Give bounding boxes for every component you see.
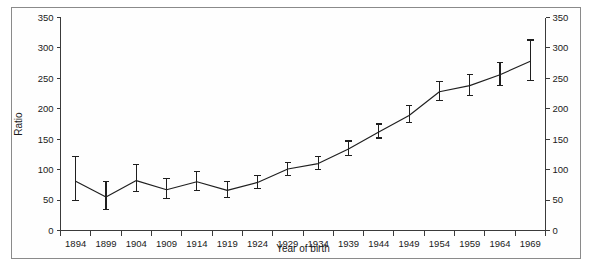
- x-tick-label: 1924: [247, 238, 268, 249]
- error-bar: [194, 171, 200, 190]
- error-bar: [133, 164, 139, 191]
- y-tick-label-left: 150: [38, 134, 54, 145]
- y-tick-label-right: 300: [553, 42, 569, 53]
- y-tick-label-left: 300: [38, 42, 54, 53]
- series-line-ratio: [76, 61, 531, 197]
- x-tick-label: 1969: [520, 238, 541, 249]
- y-axis-left: 050100150200250300350: [38, 12, 61, 236]
- x-tick-label: 1894: [65, 238, 86, 249]
- y-tick-label-left: 350: [38, 12, 54, 23]
- y-tick-label-right: 50: [553, 194, 564, 205]
- x-tick-label: 1909: [156, 238, 177, 249]
- y-tick-label-right: 350: [553, 12, 569, 23]
- error-bars: [72, 40, 533, 209]
- x-tick-label: 1954: [429, 238, 450, 249]
- x-tick-label: 1944: [368, 238, 389, 249]
- x-tick-label: 1904: [126, 238, 147, 249]
- ratio-by-year-of-birth-chart: 050100150200250300350 050100150200250300…: [0, 0, 594, 275]
- y-tick-label-right: 0: [553, 225, 558, 236]
- x-tick-label: 1964: [489, 238, 510, 249]
- y-tick-label-right: 100: [553, 164, 569, 175]
- y-tick-label-left: 100: [38, 164, 54, 175]
- error-bar: [72, 157, 78, 200]
- x-tick-label: 1899: [95, 238, 116, 249]
- x-tick-label: 1914: [186, 238, 207, 249]
- x-tick-label: 1919: [217, 238, 238, 249]
- ratio-trend-line: [76, 61, 531, 197]
- y-tick-label-right: 200: [553, 103, 569, 114]
- y-axis-right: 050100150200250300350: [546, 12, 569, 236]
- x-axis-title: Year of birth: [276, 243, 330, 254]
- y-tick-label-right: 150: [553, 134, 569, 145]
- error-bar: [527, 40, 533, 80]
- x-tick-label: 1959: [459, 238, 480, 249]
- y-tick-label-left: 50: [43, 194, 54, 205]
- y-axis-title-left: Ratio: [13, 112, 24, 136]
- y-tick-label-right: 250: [553, 73, 569, 84]
- x-tick-label: 1939: [338, 238, 359, 249]
- y-tick-label-left: 250: [38, 73, 54, 84]
- y-tick-label-left: 200: [38, 103, 54, 114]
- y-tick-label-left: 0: [48, 225, 53, 236]
- x-tick-label: 1949: [399, 238, 420, 249]
